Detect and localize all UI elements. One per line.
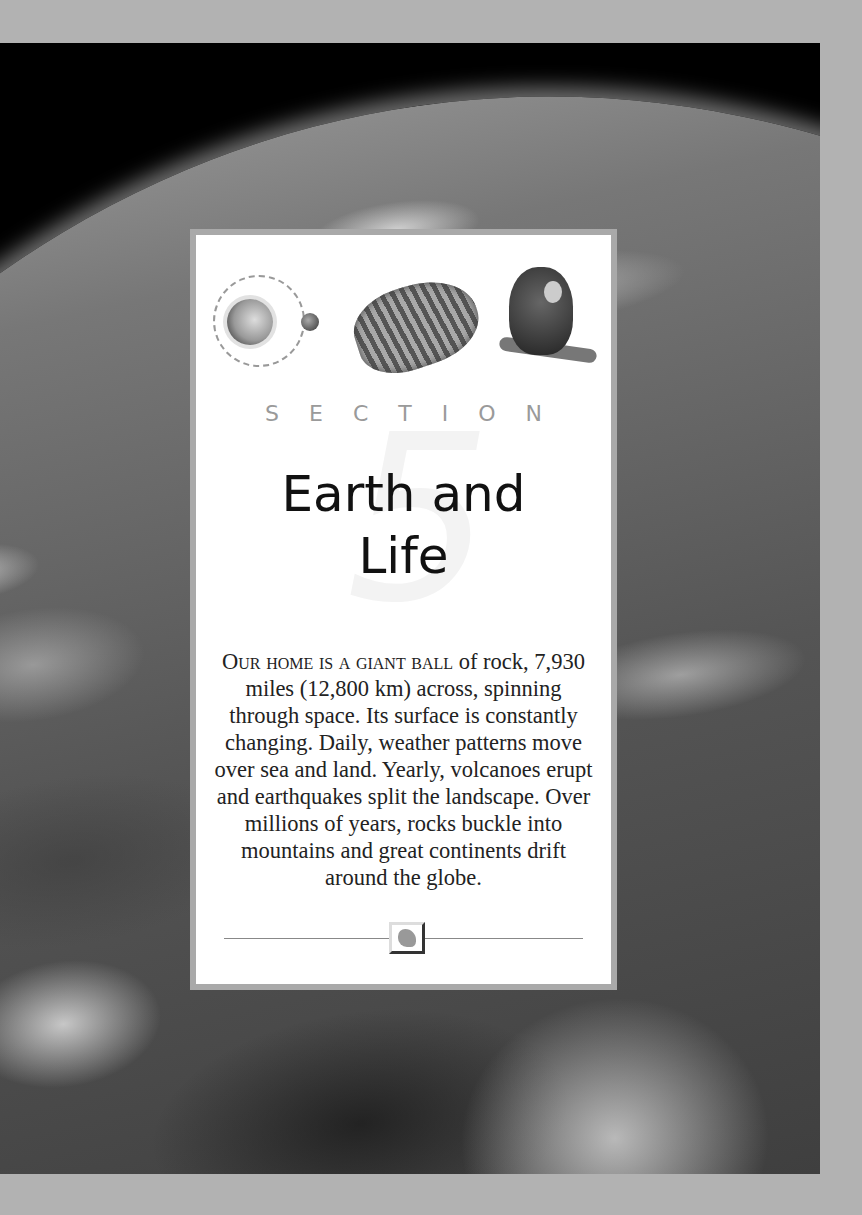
monkey-icon [499,257,599,387]
monkey-face-shape [544,281,562,303]
intro-text: of rock, 7,930 miles (12,800 km) across,… [215,649,593,890]
section-icons [196,255,611,385]
earth-globe-icon [227,299,273,345]
map-shape [398,929,416,947]
fossil-tooth-icon [344,268,488,385]
intro-paragraph: Our home is a giant ball of rock, 7,930 … [214,648,593,891]
title-line-2: Life [196,525,611,587]
monkey-body-shape [509,267,573,355]
section-intro-card: SECTION 5 Earth and Life Our home is a g… [190,229,617,990]
intro-smallcaps: Our home is a giant ball [222,649,453,674]
title-line-1: Earth and [196,463,611,525]
map-emblem-icon [389,922,425,954]
moon-icon [301,313,319,331]
earth-moon-orbit-icon [213,275,305,367]
section-title: Earth and Life [196,463,611,587]
